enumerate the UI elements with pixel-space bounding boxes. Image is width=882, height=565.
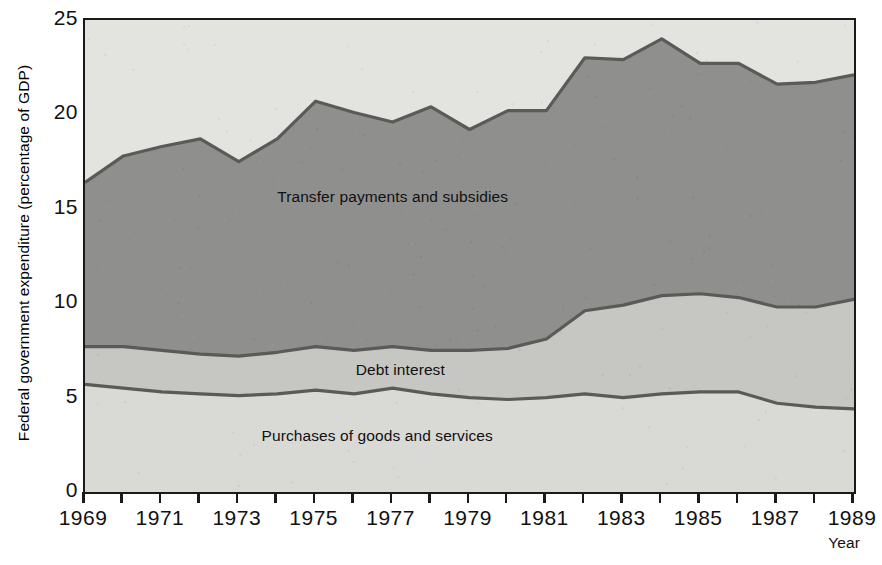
x-tick-1989: 1989 — [828, 506, 877, 530]
x-tick-mark — [620, 492, 623, 503]
x-tick-mark — [120, 492, 123, 503]
y-tick-20: 20 — [32, 101, 78, 122]
x-tick-1985: 1985 — [674, 506, 723, 530]
x-tick-mark — [774, 492, 777, 503]
chart-figure: Federal government expenditure (percenta… — [0, 0, 882, 565]
y-tick-10: 10 — [32, 290, 78, 311]
x-tick-1983: 1983 — [597, 506, 646, 530]
series-label-transfers: Transfer payments and subsidies — [277, 188, 508, 206]
x-tick-mark — [82, 492, 85, 503]
x-tick-mark — [390, 492, 393, 503]
y-axis-tick-labels: 0510152025 — [16, 0, 78, 565]
x-tick-mark — [813, 492, 816, 503]
y-tick-15: 15 — [32, 196, 78, 217]
x-tick-1981: 1981 — [520, 506, 569, 530]
x-tick-mark — [582, 492, 585, 503]
x-tick-mark — [236, 492, 239, 503]
x-tick-mark — [428, 492, 431, 503]
x-tick-mark — [274, 492, 277, 503]
x-axis-tick-labels: 1969197119731975197719791981198319851987… — [0, 498, 882, 532]
y-tick-5: 5 — [32, 385, 78, 406]
stacked-area-svg — [85, 20, 854, 492]
x-tick-1971: 1971 — [136, 506, 185, 530]
x-tick-1977: 1977 — [366, 506, 415, 530]
x-tick-mark — [697, 492, 700, 503]
series-label-purchases: Purchases of goods and services — [262, 427, 493, 445]
x-tick-mark — [351, 492, 354, 503]
x-tick-1975: 1975 — [289, 506, 338, 530]
x-tick-1979: 1979 — [443, 506, 492, 530]
x-tick-1969: 1969 — [59, 506, 108, 530]
series-label-debt-interest: Debt interest — [356, 361, 445, 379]
y-tick-0: 0 — [32, 479, 78, 500]
x-tick-1973: 1973 — [212, 506, 261, 530]
x-tick-mark — [851, 492, 854, 503]
x-tick-mark — [659, 492, 662, 503]
x-tick-mark — [543, 492, 546, 503]
x-tick-mark — [736, 492, 739, 503]
y-tick-25: 25 — [32, 7, 78, 28]
x-axis-title: Year — [828, 534, 860, 552]
x-tick-mark — [159, 492, 162, 503]
plot-area: Transfer payments and subsidies Debt int… — [83, 18, 856, 494]
x-tick-mark — [467, 492, 470, 503]
x-tick-mark — [197, 492, 200, 503]
x-tick-1987: 1987 — [751, 506, 800, 530]
x-tick-mark — [505, 492, 508, 503]
x-tick-mark — [313, 492, 316, 503]
